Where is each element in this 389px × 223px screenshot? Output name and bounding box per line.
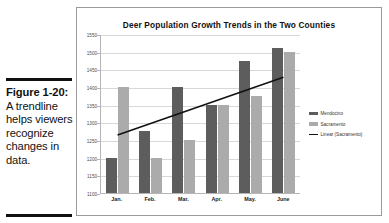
legend-color-swatch-icon	[309, 122, 318, 125]
legend-label: Mendocino	[321, 111, 343, 116]
y-axis-tick-mark	[97, 88, 100, 89]
y-axis-tick-label: 1100	[78, 192, 97, 197]
legend-item[interactable]: Linear (Sacramento)	[309, 132, 379, 137]
figure-number-label: Figure 1-20:	[6, 86, 68, 98]
y-axis-tick-label: 1250	[78, 139, 97, 144]
figure-page: Figure 1-20: A trendline helps viewers r…	[0, 0, 389, 223]
y-axis-tick-mark	[97, 159, 100, 160]
legend-item[interactable]: Sacramento	[309, 122, 379, 127]
plot-area	[100, 35, 300, 194]
y-axis-tick-label: 1350	[78, 103, 97, 108]
trendline-svg	[101, 35, 300, 193]
chart-title: Deer Population Growth Trends in the Two…	[77, 20, 381, 30]
legend-item[interactable]: Mendocino	[309, 111, 379, 116]
y-axis-tick-label: 1500	[78, 50, 97, 55]
y-axis-tick-label: 1450	[78, 68, 97, 73]
x-axis-label: Feb.	[133, 196, 166, 202]
caption-text: Figure 1-20: A trendline helps viewers r…	[6, 86, 76, 168]
linear-trendline	[118, 77, 284, 135]
caption-top-rule	[6, 78, 72, 81]
figure-caption-block: Figure 1-20: A trendline helps viewers r…	[0, 0, 74, 223]
legend-line-swatch-icon	[309, 134, 318, 136]
y-axis-tick-label: 1200	[78, 156, 97, 161]
chart-container: Deer Population Growth Trends in the Two…	[76, 7, 382, 216]
chart-legend: MendocinoSacramentoLinear (Sacramento)	[309, 111, 379, 143]
x-axis-label: Mar.	[167, 196, 200, 202]
legend-color-swatch-icon	[309, 112, 318, 115]
legend-label: Linear (Sacramento)	[321, 132, 363, 137]
x-axis-labels: Jan.Feb.Mar.Apr.May.June	[100, 196, 300, 202]
legend-label: Sacramento	[321, 122, 346, 127]
caption-bottom-rule	[6, 214, 72, 217]
y-axis-tick-mark	[97, 123, 100, 124]
y-axis-tick-mark	[97, 35, 100, 36]
y-axis-tick-label: 1400	[78, 86, 97, 91]
y-axis-tick-mark	[97, 106, 100, 107]
y-axis-tick-mark	[97, 53, 100, 54]
y-axis-tick-mark	[97, 194, 100, 195]
x-axis-label: Jan.	[100, 196, 133, 202]
x-axis-label: May.	[233, 196, 266, 202]
caption-body-text: A trendline helps viewers recognize chan…	[6, 100, 72, 166]
y-axis-tick-label: 1300	[78, 121, 97, 126]
y-axis-tick-mark	[97, 141, 100, 142]
x-axis-label: Apr.	[200, 196, 233, 202]
y-axis-tick-label: 1150	[78, 174, 97, 179]
plot-wrapper: 1550150014501400135013001250120011501100	[100, 35, 300, 194]
x-axis-label: June	[267, 196, 300, 202]
y-axis-tick-mark	[97, 176, 100, 177]
y-axis-tick-label: 1550	[78, 33, 97, 38]
y-axis-tick-mark	[97, 70, 100, 71]
